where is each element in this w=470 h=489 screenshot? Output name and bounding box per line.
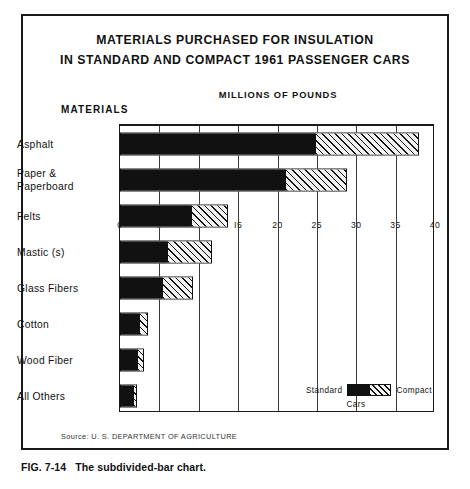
bar-segment-standard [121,206,191,227]
chart-row: Cotton [120,306,433,342]
source-note: Source: U. S. DEPARTMENT OF AGRICULTURE [61,432,237,441]
bar-segment-standard [121,170,285,191]
bar-segment-standard [121,278,162,299]
stacked-bar [120,349,144,372]
chart-title-line-1: MATERIALS PURCHASED FOR INSULATION [38,30,432,50]
stacked-bar [120,277,193,300]
figure-frame: MATERIALS PURCHASED FOR INSULATION IN ST… [21,14,449,450]
plot-area: 05IOI52025303540AsphaltPaper & Paperboar… [119,124,434,412]
bar-segment-compact [137,350,144,371]
bar-segment-standard [121,386,133,407]
category-label: Asphalt [17,138,111,151]
chart-row: Glass Fibers [120,270,433,306]
category-label: Mastic (s) [17,246,111,259]
bar-segment-compact [133,386,135,407]
bar-segment-standard [121,242,167,263]
category-label: Paper & Paperboard [17,167,111,193]
stacked-bar [120,133,419,156]
chart-row: Mastic (s) [120,234,433,270]
chart-title: MATERIALS PURCHASED FOR INSULATION IN ST… [23,30,447,70]
legend-label-compact: Compact [396,386,432,395]
stacked-bar [120,169,347,192]
stacked-bar [120,385,137,408]
chart-row: Felts [120,198,433,234]
legend-swatch-compact [369,385,390,395]
legend-swatch-standard [348,385,369,395]
stacked-bar [120,241,212,264]
bar-segment-compact [139,314,147,335]
category-label: Felts [17,210,111,223]
figure-caption: FIG. 7-14The subdivided-bar chart. [21,461,206,473]
category-label: Wood Fiber [17,354,111,367]
category-label: All Others [17,390,111,403]
chart-row: Wood Fiber [120,342,433,378]
chart-row: Asphalt [120,126,433,162]
legend-label-cars: Cars [306,400,406,409]
legend-swatch [347,384,391,396]
bar-segment-compact [162,278,193,299]
chart-title-line-2: IN STANDARD AND COMPACT 1961 PASSENGER C… [38,50,432,70]
legend-label-standard: Standard [306,386,342,395]
bar-segment-compact [285,170,346,191]
figure-caption-text: The subdivided-bar chart. [75,461,206,473]
bar-segment-compact [315,134,418,155]
category-label: Cotton [17,318,111,331]
bar-segment-standard [121,350,137,371]
bar-segment-standard [121,134,315,155]
figure-caption-number: FIG. 7-14 [21,461,66,473]
chart-row: Paper & Paperboard [120,162,433,198]
y-axis-title: MATERIALS [61,104,129,115]
bar-segment-compact [167,242,211,263]
stacked-bar [120,205,228,228]
bar-segment-standard [121,314,139,335]
bar-segment-compact [191,206,227,227]
x-axis-title: MILLIONS OF POUNDS [119,90,437,100]
stacked-bar [120,313,148,336]
category-label: Glass Fibers [17,282,111,295]
chart-legend: StandardCompact [306,384,432,396]
